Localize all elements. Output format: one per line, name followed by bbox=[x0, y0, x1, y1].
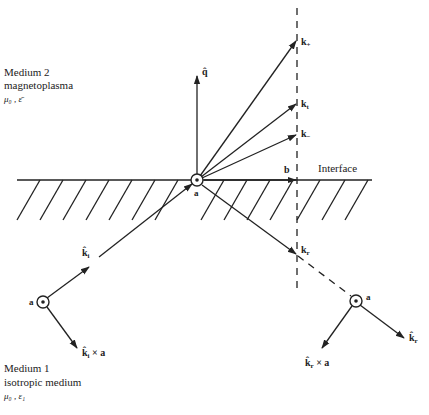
b-label: b bbox=[284, 164, 290, 175]
medium2-name: Medium 2 bbox=[4, 66, 50, 78]
incident-ray bbox=[99, 184, 192, 257]
k-plus-label: k+ bbox=[301, 36, 311, 49]
right-a-out-of-page-icon bbox=[350, 295, 362, 307]
k-i-cross-a-vector bbox=[47, 307, 77, 348]
k-r-cross-a-label: k̂r × a bbox=[305, 356, 329, 370]
origin-a-label: a bbox=[194, 188, 199, 198]
k-minus-label: k− bbox=[301, 128, 311, 141]
origin-a-out-of-page-icon bbox=[191, 174, 203, 186]
medium1-type: isotropic medium bbox=[4, 376, 82, 388]
interface-label: Interface bbox=[318, 162, 357, 174]
k-r-label: kr bbox=[301, 244, 310, 257]
left-a-label: a bbox=[29, 297, 34, 307]
medium2-params: μ₀ , ε̄ bbox=[3, 94, 25, 104]
k-r-hat-label: k̂r bbox=[409, 331, 418, 345]
k-t-vector bbox=[201, 104, 296, 177]
medium2-type: magnetoplasma bbox=[4, 79, 73, 91]
right-a-label: a bbox=[366, 292, 371, 302]
k-r-cross-a-vector bbox=[322, 306, 352, 348]
interface-hatching bbox=[17, 180, 368, 220]
q-hat-label: q̂ bbox=[202, 66, 208, 77]
k-i-hat-label: k̂i bbox=[82, 246, 90, 260]
medium1-params: μ₀ , ε₁ bbox=[3, 391, 25, 401]
k-r-vector bbox=[202, 185, 296, 254]
left-a-out-of-page-icon bbox=[37, 296, 49, 308]
k-i-cross-a-label: k̂i × a bbox=[82, 346, 105, 360]
medium1-name: Medium 1 bbox=[4, 362, 50, 374]
reflection-transmission-diagram: Medium 2 magnetoplasma μ₀ , ε̄ Interface… bbox=[0, 0, 429, 415]
k-r-dashed-extension bbox=[298, 256, 351, 296]
k-plus-vector bbox=[200, 41, 296, 176]
k-r-hat-vector bbox=[360, 305, 404, 338]
k-i-hat-vector bbox=[47, 267, 89, 298]
k-minus-vector bbox=[202, 135, 296, 178]
k-t-label: kt bbox=[301, 98, 310, 111]
